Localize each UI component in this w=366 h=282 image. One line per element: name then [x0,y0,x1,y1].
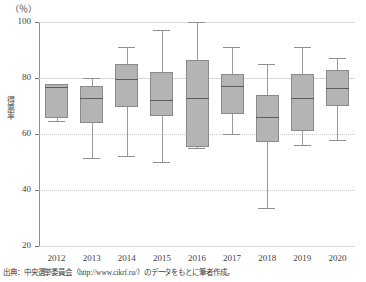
x-tick-label-2016: 2016 [181,253,213,263]
y-tick-mark-80 [35,78,39,79]
box-iqr [45,84,68,118]
cap-lower [329,140,346,141]
y-tick-mark-100 [35,22,39,23]
whisker-lower [162,116,163,162]
y-tick-label-20: 20 [7,240,31,250]
cap-upper [258,64,275,65]
x-tick-label-2015: 2015 [146,253,178,263]
x-tick-label-2017: 2017 [216,253,248,263]
box-plot-figure: （％） 得票率 出典：中央選挙委員会（http://www.cikrf.ru/）… [0,0,366,282]
whisker-upper [337,58,338,69]
whisker-upper [197,22,198,60]
cap-upper [118,47,135,48]
cap-lower [118,156,135,157]
box-iqr [115,64,138,107]
box-iqr [150,72,173,115]
x-tick-label-2012: 2012 [41,253,73,263]
whisker-upper [267,64,268,95]
y-tick-mark-40 [35,190,39,191]
box-iqr [186,60,209,147]
x-tick-label-2020: 2020 [321,253,353,263]
y-tick-mark-20 [35,246,39,247]
gridline-40 [39,190,355,191]
y-axis-title: 得票率 [2,96,13,120]
whisker-lower [92,123,93,158]
x-tick-label-2019: 2019 [286,253,318,263]
cap-upper [294,47,311,48]
median-line [150,100,173,101]
cap-lower [48,121,65,122]
gridline-20 [39,246,355,247]
cap-upper [223,47,240,48]
cap-lower [294,145,311,146]
median-line [80,98,103,99]
median-line [326,88,349,89]
median-line [45,87,68,88]
whisker-upper [127,47,128,64]
whisker-upper [92,78,93,86]
whisker-lower [337,106,338,140]
box-iqr [221,74,244,115]
median-line [115,79,138,80]
whisker-lower [127,107,128,156]
y-tick-label-40: 40 [7,184,31,194]
cap-upper [188,22,205,23]
cap-lower [223,134,240,135]
whisker-lower [267,142,268,208]
y-tick-label-80: 80 [7,72,31,82]
y-tick-label-100: 100 [7,16,31,26]
y-tick-mark-60 [35,134,39,135]
cap-lower [188,148,205,149]
box-iqr [291,74,314,131]
x-tick-label-2018: 2018 [251,253,283,263]
x-tick-label-2013: 2013 [76,253,108,263]
x-tick-label-2014: 2014 [111,253,143,263]
cap-upper [83,78,100,79]
whisker-lower [302,131,303,145]
median-line [186,98,209,99]
whisker-upper [232,47,233,74]
median-line [221,86,244,87]
source-note: 出典：中央選挙委員会（http://www.cikrf.ru/）のデータをもとに… [3,266,233,277]
median-line [291,98,314,99]
cap-upper [153,30,170,31]
cap-lower [83,158,100,159]
plot-area [39,22,355,246]
y-tick-label-60: 60 [7,128,31,138]
whisker-lower [232,114,233,134]
box-iqr [80,86,103,122]
box-iqr [256,95,279,143]
whisker-upper [162,30,163,72]
median-line [256,117,279,118]
y-axis-unit-label: （％） [10,2,37,15]
cap-lower [258,208,275,209]
cap-lower [153,162,170,163]
cap-upper [329,58,346,59]
whisker-upper [302,47,303,74]
